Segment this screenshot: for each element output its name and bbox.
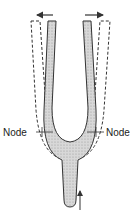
tuning-fork-diagram: Node Node [0,0,137,215]
fork-body [44,21,96,207]
node-label-right: Node [106,127,130,138]
displaced-fork-outline [31,21,110,160]
node-label-left: Node [3,127,27,138]
